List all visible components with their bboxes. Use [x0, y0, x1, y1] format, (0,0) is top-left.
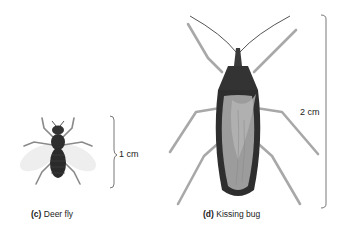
kissing-bug-scale-bracket — [321, 15, 326, 208]
deer-fly-caption: (c) Deer fly — [31, 210, 73, 219]
deer-fly-scale-label: 1 cm — [119, 150, 139, 159]
kissing-bug-caption: (d) Kissing bug — [203, 210, 260, 219]
deer-fly-name: Deer fly — [44, 209, 73, 219]
figure-artwork — [0, 0, 345, 233]
kissing-bug-panel-letter: (d) — [203, 209, 214, 219]
deer-fly-scale-bracket — [110, 116, 117, 188]
deer-fly-illustration — [16, 118, 101, 184]
kissing-bug-scale-label: 2 cm — [300, 108, 320, 117]
deer-fly-panel-letter: (c) — [31, 209, 41, 219]
kissing-bug-name: Kissing bug — [216, 209, 260, 219]
kissing-bug-illustration — [170, 16, 318, 204]
